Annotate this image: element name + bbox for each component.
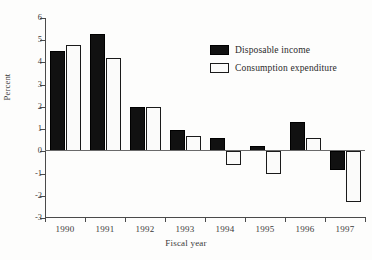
bar xyxy=(186,136,201,152)
bar xyxy=(346,151,361,202)
y-tick-label: 4 xyxy=(18,56,42,66)
x-tick-mark xyxy=(85,217,86,222)
y-tick-label: 5 xyxy=(18,34,42,44)
y-axis-label: Percent xyxy=(2,52,12,122)
bar xyxy=(290,122,305,151)
bar-chart-figure: Percent Fiscal year 6543210-1-2-3 199019… xyxy=(0,0,372,260)
legend-item-disposable-income: Disposable income xyxy=(210,42,337,57)
y-tick: 1 xyxy=(45,129,46,130)
y-tick-label: -2 xyxy=(18,190,42,200)
x-tick-mark xyxy=(165,217,166,222)
bar xyxy=(226,151,241,164)
legend-label: Consumption expenditure xyxy=(235,63,337,73)
y-tick: 6 xyxy=(45,18,46,19)
y-tick-label: 2 xyxy=(18,101,42,111)
x-tick-mark xyxy=(205,217,206,222)
bar xyxy=(170,130,185,151)
y-tick: 0 xyxy=(45,151,46,152)
bar xyxy=(50,51,65,151)
x-tick-label: 1996 xyxy=(283,224,327,234)
y-tick: 5 xyxy=(45,40,46,41)
bar xyxy=(90,34,105,152)
y-tick-label: 0 xyxy=(18,145,42,155)
bar xyxy=(146,107,161,151)
x-axis-label: Fiscal year xyxy=(0,238,372,248)
x-tick-label: 1992 xyxy=(123,224,167,234)
y-tick: 3 xyxy=(45,85,46,86)
x-tick-label: 1991 xyxy=(83,224,127,234)
bar xyxy=(130,107,145,151)
y-tick-label: 1 xyxy=(18,123,42,133)
zero-reference-line xyxy=(45,150,365,151)
bar xyxy=(266,151,281,173)
x-tick-label: 1994 xyxy=(203,224,247,234)
y-tick: 2 xyxy=(45,107,46,108)
y-tick-label: 3 xyxy=(18,79,42,89)
legend-swatch-filled-icon xyxy=(210,45,229,55)
x-tick-label: 1990 xyxy=(43,224,87,234)
x-tick-mark xyxy=(125,217,126,222)
chart-legend: Disposable income Consumption expenditur… xyxy=(210,42,337,78)
y-tick-label: -3 xyxy=(18,212,42,222)
y-tick-label: -1 xyxy=(18,168,42,178)
bar xyxy=(330,151,345,170)
x-tick-mark xyxy=(365,217,366,222)
x-tick-mark xyxy=(285,217,286,222)
x-tick-label: 1995 xyxy=(243,224,287,234)
x-tick-label: 1993 xyxy=(163,224,207,234)
x-tick-mark xyxy=(325,217,326,222)
bar xyxy=(106,58,121,151)
x-tick-mark xyxy=(45,217,46,222)
legend-item-consumption-expenditure: Consumption expenditure xyxy=(210,60,337,75)
y-tick-label: 6 xyxy=(18,12,42,22)
bar xyxy=(66,45,81,152)
y-axis-line xyxy=(45,18,46,218)
y-tick: -2 xyxy=(45,196,46,197)
x-tick-label: 1997 xyxy=(323,224,367,234)
y-tick: -1 xyxy=(45,174,46,175)
legend-swatch-outlined-icon xyxy=(210,63,229,73)
x-tick-mark xyxy=(245,217,246,222)
legend-label: Disposable income xyxy=(235,45,310,55)
y-tick: 4 xyxy=(45,62,46,63)
